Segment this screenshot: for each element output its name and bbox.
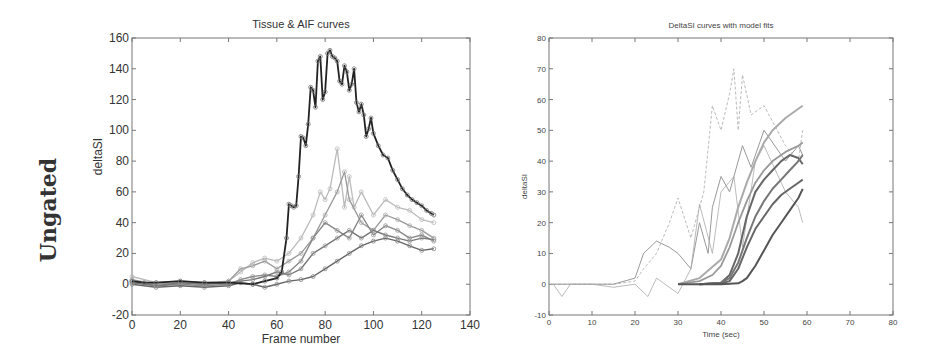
series-line — [132, 215, 434, 286]
x-tick-label: 140 — [460, 318, 480, 332]
y-tick-label: 40 — [537, 157, 546, 166]
y-tick-label: 160 — [109, 31, 129, 45]
x-tick-label: 80 — [318, 318, 332, 332]
y-tick-label: 120 — [109, 93, 129, 107]
series-line — [132, 50, 434, 284]
x-tick-label: 40 — [222, 318, 236, 332]
x-tick-label: 80 — [889, 318, 898, 327]
x-tick-label: 0 — [129, 318, 136, 332]
x-tick-label: 40 — [717, 318, 726, 327]
x-axis-label: Time (sec) — [702, 330, 740, 339]
chart-canvas: Tissue & AIF curves020406080100120140-20… — [0, 0, 935, 358]
y-tick-label: 20 — [537, 219, 546, 228]
y-tick-label: 140 — [109, 62, 129, 76]
y-tick-label: 30 — [537, 188, 546, 197]
chart-title: DeltaSI curves with model fits — [669, 21, 774, 30]
deltasi-fit-chart: DeltaSI curves with model fits0102030405… — [520, 21, 898, 339]
y-tick-label: -10 — [534, 311, 546, 320]
chart-title: Tissue & AIF curves — [252, 18, 350, 30]
x-tick-label: 70 — [846, 318, 855, 327]
x-tick-label: 50 — [760, 318, 769, 327]
series-line — [553, 69, 802, 284]
x-tick-label: 60 — [803, 318, 812, 327]
y-tick-label: 0 — [122, 277, 129, 291]
y-tick-label: 80 — [116, 154, 130, 168]
y-tick-label: -20 — [112, 308, 130, 322]
y-tick-label: 100 — [109, 123, 129, 137]
y-axis-label: deltaSI — [520, 174, 529, 199]
tissue-aif-chart: Tissue & AIF curves020406080100120140-20… — [91, 18, 480, 346]
x-tick-label: 30 — [674, 318, 683, 327]
x-tick-label: 10 — [588, 318, 597, 327]
plot-frame — [132, 38, 470, 315]
x-tick-label: 20 — [174, 318, 188, 332]
y-axis-label: deltaSI — [91, 138, 105, 175]
y-tick-label: 60 — [537, 96, 546, 105]
x-tick-label: 0 — [547, 318, 552, 327]
x-tick-label: 120 — [412, 318, 432, 332]
x-tick-label: 100 — [363, 318, 383, 332]
x-axis-label: Frame number — [262, 332, 341, 346]
y-tick-label: 40 — [116, 216, 130, 230]
series-line — [700, 180, 803, 285]
y-tick-label: 50 — [537, 126, 546, 135]
y-tick-label: 60 — [116, 185, 130, 199]
x-tick-label: 20 — [631, 318, 640, 327]
y-tick-label: 70 — [537, 65, 546, 74]
x-tick-label: 60 — [270, 318, 284, 332]
series-line — [553, 130, 802, 284]
y-tick-label: 80 — [537, 34, 546, 43]
y-tick-label: 20 — [116, 246, 130, 260]
y-tick-label: 0 — [542, 280, 547, 289]
y-tick-label: 10 — [537, 249, 546, 258]
